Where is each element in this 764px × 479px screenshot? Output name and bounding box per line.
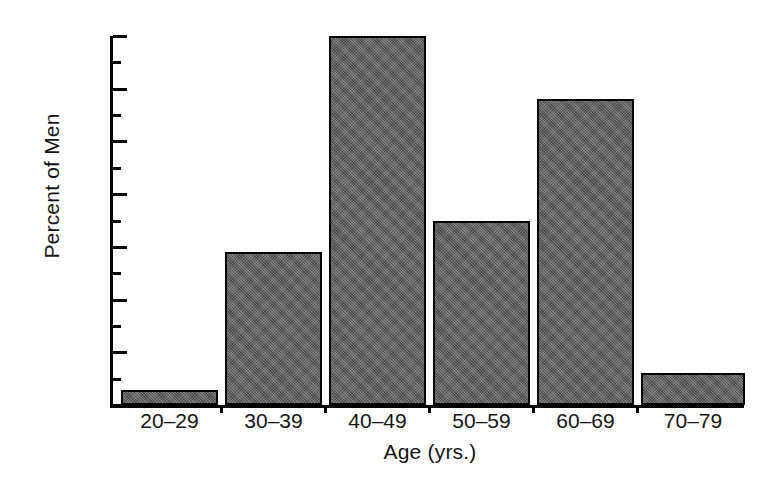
y-tick-minor (113, 378, 121, 381)
y-tick-minor (113, 114, 121, 117)
y-tick-minor (113, 220, 121, 223)
y-tick-major (113, 351, 127, 354)
y-tick-major (113, 88, 127, 91)
bar (537, 99, 634, 405)
plot-area: 05101520253035 (110, 36, 744, 408)
x-axis-title: Age (yrs.) (118, 440, 742, 464)
y-tick-minor (113, 61, 121, 64)
bar (329, 36, 426, 405)
y-tick-minor (113, 167, 121, 170)
bar (121, 390, 218, 405)
bar (225, 252, 322, 405)
bar (641, 373, 745, 405)
y-tick-major (113, 246, 127, 249)
y-tick-major (113, 35, 127, 38)
x-category-label: 50–59 (423, 410, 540, 432)
x-axis-line (110, 405, 744, 408)
y-tick-minor (113, 272, 121, 275)
y-tick-major (113, 299, 127, 302)
bar-chart-figure: Percent of Men 05101520253035 20–2930–39… (0, 0, 764, 479)
y-tick-minor (113, 325, 121, 328)
y-tick-major (113, 193, 127, 196)
x-category-label: 30–39 (215, 410, 332, 432)
y-axis-title: Percent of Men (40, 36, 64, 336)
y-tick-major (113, 140, 127, 143)
x-category-label: 40–49 (319, 410, 436, 432)
x-category-label: 20–29 (111, 410, 228, 432)
bar (433, 221, 530, 406)
x-category-label: 70–79 (631, 410, 755, 432)
x-category-label: 60–69 (527, 410, 644, 432)
